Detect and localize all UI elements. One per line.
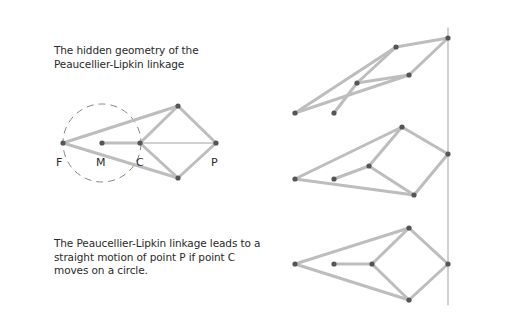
label-M: M xyxy=(96,156,106,169)
links-layer xyxy=(63,38,448,300)
joints-layer xyxy=(60,35,450,302)
hidden-geometry-joint-top xyxy=(175,103,180,108)
hidden-geometry-joint-P xyxy=(213,140,218,145)
linkage-3-bar-top-P xyxy=(409,228,448,264)
linkage-3-joint-P xyxy=(445,261,450,266)
linkage-2-bar-top-P xyxy=(402,127,448,154)
linkage-2-joint-M xyxy=(331,176,336,181)
linkage-3-joint-C xyxy=(369,261,374,266)
hidden-geometry-joint-C xyxy=(137,140,142,145)
label-P: P xyxy=(211,156,218,169)
linkage-1-joint-M xyxy=(331,110,336,115)
linkage-figure: F M C P xyxy=(0,0,529,335)
linkage-2-joint-P xyxy=(445,151,450,156)
linkage-1-joint-F xyxy=(292,110,297,115)
linkage-2-joint-top xyxy=(399,124,404,129)
linkage-2-bar-F-bottom xyxy=(295,179,414,195)
label-F: F xyxy=(56,156,62,169)
linkage-1-bar-F-bottom xyxy=(295,75,409,113)
linkage-3-joint-bottom xyxy=(406,297,411,302)
linkage-3-joint-top xyxy=(406,225,411,230)
hidden-geometry-joint-M xyxy=(99,140,104,145)
linkage-3-joint-F xyxy=(292,261,297,266)
linkage-1-joint-top xyxy=(393,44,398,49)
linkage-2-bar-F-top xyxy=(295,127,402,179)
linkage-2-joint-C xyxy=(366,163,371,168)
static-layer xyxy=(63,28,448,305)
linkage-1-joint-P xyxy=(445,35,450,40)
linkage-3-joint-M xyxy=(331,261,336,266)
linkage-1-joint-bottom xyxy=(406,72,411,77)
hidden-geometry-bar-top-P xyxy=(178,106,216,143)
linkage-2-bar-C-top xyxy=(369,127,402,166)
linkage-2-joint-F xyxy=(292,176,297,181)
hidden-geometry-joint-bottom xyxy=(175,175,180,180)
linkage-2-joint-bottom xyxy=(411,192,416,197)
label-C: C xyxy=(136,156,144,169)
linkage-1-joint-C xyxy=(354,80,359,85)
linkage-2-bar-M-C xyxy=(334,166,369,179)
hidden-geometry-joint-F xyxy=(60,140,65,145)
linkage-2-bar-bottom-P xyxy=(414,154,448,195)
linkage-3-bar-bottom-P xyxy=(409,264,448,300)
